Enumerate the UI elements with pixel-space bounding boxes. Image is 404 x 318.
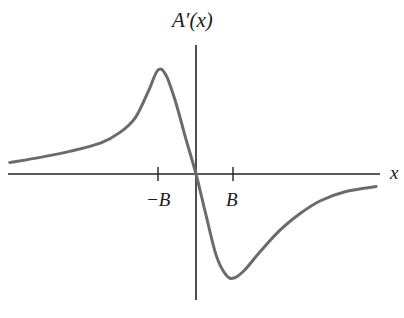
- tick-label-neg-b: −B: [146, 189, 170, 211]
- y-axis-label: A′(x): [172, 8, 213, 33]
- chart-canvas: [0, 0, 404, 318]
- x-axis-label: x: [390, 162, 398, 184]
- tick-label-pos-b: B: [226, 189, 238, 211]
